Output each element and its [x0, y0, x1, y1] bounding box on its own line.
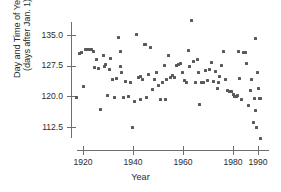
data-point	[133, 100, 136, 103]
data-point	[236, 94, 239, 97]
data-point	[109, 57, 112, 60]
data-point	[117, 36, 120, 39]
data-point	[254, 37, 257, 40]
data-point	[115, 77, 118, 80]
data-point	[75, 96, 78, 99]
y-axis-tick	[67, 66, 76, 67]
scatter-chart-figure: Day and Time of Year (days after Jan. 1)…	[0, 0, 281, 192]
data-point	[149, 46, 152, 49]
data-point	[255, 126, 258, 129]
data-point	[214, 70, 217, 73]
data-point	[111, 78, 114, 81]
data-point	[141, 78, 144, 81]
x-axis-tick	[233, 146, 234, 155]
data-point	[194, 81, 197, 84]
data-point	[151, 88, 154, 91]
x-axis-tick	[83, 146, 84, 155]
data-point	[250, 78, 253, 81]
data-point	[220, 64, 223, 67]
x-axis-tick	[258, 146, 259, 155]
data-point	[257, 87, 260, 90]
data-point	[249, 89, 252, 92]
data-point	[247, 104, 250, 107]
y-axis-tick	[67, 127, 76, 128]
data-point	[164, 98, 167, 101]
x-axis-tick	[133, 146, 134, 155]
data-point	[181, 71, 184, 74]
data-point	[99, 108, 102, 111]
data-point	[256, 71, 259, 74]
data-point	[244, 51, 247, 54]
data-point	[119, 50, 122, 53]
data-point	[254, 109, 257, 112]
data-point	[187, 49, 190, 52]
y-axis-line	[71, 22, 72, 138]
y-axis-tick	[67, 35, 76, 36]
data-point	[129, 81, 132, 84]
data-point	[97, 67, 100, 70]
data-point	[163, 64, 166, 67]
data-point	[161, 81, 164, 84]
x-axis-tick-label: 1990	[241, 157, 275, 167]
data-point	[190, 19, 193, 22]
data-point	[153, 78, 156, 81]
data-point	[173, 76, 176, 79]
data-point	[159, 98, 162, 101]
x-axis-line	[77, 150, 269, 151]
data-point	[204, 69, 207, 72]
data-point	[238, 77, 241, 80]
data-point	[120, 71, 123, 74]
data-point	[122, 96, 125, 99]
data-point	[185, 81, 188, 84]
plot-area: 135.0127.5120.0112.519201940196019801990	[0, 0, 281, 192]
data-point	[167, 54, 170, 57]
y-axis-tick-label-wrap: 112.5	[29, 122, 63, 133]
y-axis-tick-label: 112.5	[29, 122, 63, 132]
y-axis-tick-label-wrap: 127.5	[29, 60, 63, 71]
data-point	[139, 98, 142, 101]
data-point	[157, 84, 160, 87]
data-point	[93, 66, 96, 69]
data-point	[196, 58, 199, 61]
data-point	[218, 75, 221, 78]
data-point	[113, 96, 116, 99]
data-point	[252, 121, 255, 124]
data-point	[179, 62, 182, 65]
data-point	[147, 73, 150, 76]
y-axis-tick-label-wrap: 120.0	[29, 91, 63, 102]
data-point	[217, 81, 220, 84]
data-point	[124, 80, 127, 83]
data-point	[240, 98, 243, 101]
data-point	[210, 61, 213, 64]
data-point	[212, 80, 215, 83]
data-point	[108, 68, 111, 71]
data-point	[106, 94, 109, 97]
data-point	[144, 43, 147, 46]
x-axis-tick	[183, 146, 184, 155]
x-axis-tick-label: 1960	[166, 157, 200, 167]
data-point	[197, 71, 200, 74]
data-point	[253, 97, 256, 100]
data-point	[224, 78, 227, 81]
data-point	[216, 87, 219, 90]
data-point	[245, 62, 248, 65]
data-point	[145, 96, 148, 99]
data-point	[237, 50, 240, 53]
x-axis-tick-label: 1940	[116, 157, 150, 167]
data-point	[102, 54, 105, 57]
data-point	[135, 33, 138, 36]
y-axis-tick-label: 120.0	[29, 91, 63, 101]
data-point	[208, 68, 211, 71]
data-point	[95, 58, 98, 61]
data-point	[103, 65, 106, 68]
data-point	[82, 85, 85, 88]
y-axis-tick-label: 127.5	[29, 60, 63, 70]
data-point	[155, 71, 158, 74]
data-point	[202, 81, 205, 84]
data-point	[206, 79, 209, 82]
x-axis-tick-label: 1920	[66, 157, 100, 167]
data-point	[165, 78, 168, 81]
data-point	[131, 126, 134, 129]
data-point	[259, 97, 262, 100]
data-point	[222, 50, 225, 53]
